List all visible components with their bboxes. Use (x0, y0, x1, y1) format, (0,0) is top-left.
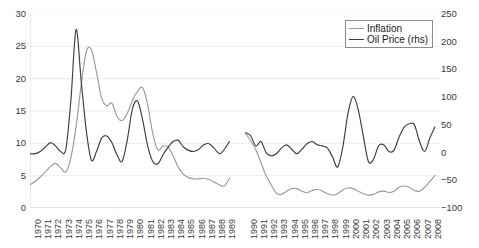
series-line (246, 97, 435, 168)
chart-container: 051015202530 −100−50050100150200250 1970… (0, 0, 479, 248)
series-inflation (30, 47, 435, 195)
x-tick: 1982 (157, 219, 166, 239)
series-line (30, 47, 230, 186)
x-tick: 1997 (321, 219, 330, 239)
x-tick: 1973 (65, 219, 74, 239)
x-tick: 1977 (106, 219, 115, 239)
y-tick-left: 25 (15, 42, 26, 52)
x-tick: 1998 (331, 219, 340, 239)
x-tick: 1980 (136, 219, 145, 239)
y-tick-left: 0 (21, 203, 26, 213)
series-line (30, 29, 230, 164)
y-tick-right: 50 (441, 120, 452, 130)
x-tick: 1972 (54, 219, 63, 239)
x-tick: 1994 (291, 219, 300, 239)
x-tick: 1993 (280, 219, 289, 239)
chart-legend: Inflation Oil Price (rhs) (345, 20, 433, 48)
x-tick: 1991 (260, 219, 269, 239)
y-tick-right: −50 (441, 176, 457, 186)
x-tick: 1999 (342, 219, 351, 239)
x-tick: 2006 (413, 219, 422, 239)
y-tick-right: 250 (441, 9, 457, 19)
y-tick-right: 100 (441, 92, 457, 102)
x-tick: 1979 (126, 219, 135, 239)
x-tick: 2001 (362, 219, 371, 239)
x-tick: 1981 (147, 219, 156, 239)
y-tick-left: 30 (15, 9, 26, 19)
x-tick: 1970 (34, 219, 43, 239)
x-tick: 2007 (424, 219, 433, 239)
x-tick: 2003 (383, 219, 392, 239)
y-axis-left: 051015202530 (0, 0, 26, 248)
y-tick-right: 150 (441, 65, 457, 75)
x-tick: 1995 (301, 219, 310, 239)
y-tick-left: 20 (15, 74, 26, 84)
x-tick: 1985 (187, 219, 196, 239)
x-tick: 1983 (167, 219, 176, 239)
x-tick: 1992 (270, 219, 279, 239)
y-tick-left: 15 (15, 106, 26, 116)
x-tick: 1976 (95, 219, 104, 239)
x-tick: 1975 (85, 219, 94, 239)
x-tick: 1974 (75, 219, 84, 239)
x-tick: 2008 (434, 219, 443, 239)
legend-label-inflation: Inflation (367, 23, 402, 34)
y-tick-left: 10 (15, 139, 26, 149)
y-tick-right: −100 (441, 203, 462, 213)
x-tick: 2004 (393, 219, 402, 239)
x-tick: 1984 (177, 219, 186, 239)
legend-label-oil-price: Oil Price (rhs) (367, 34, 428, 45)
x-tick: 1988 (218, 219, 227, 239)
x-tick: 2000 (352, 219, 361, 239)
x-tick: 1987 (208, 219, 217, 239)
x-tick: 1978 (116, 219, 125, 239)
series-oil-price-rhs (30, 29, 435, 167)
x-tick: 1986 (198, 219, 207, 239)
legend-item-inflation: Inflation (349, 23, 428, 34)
x-tick: 2002 (372, 219, 381, 239)
x-tick: 1989 (228, 219, 237, 239)
y-tick-right: 0 (441, 148, 446, 158)
y-axis-right: −100−50050100150200250 (441, 0, 479, 248)
legend-swatch-inflation (349, 28, 364, 29)
legend-swatch-oil-price (349, 39, 364, 40)
x-tick: 1990 (250, 219, 259, 239)
x-tick: 1971 (44, 219, 53, 239)
x-tick: 1996 (311, 219, 320, 239)
x-tick: 2005 (403, 219, 412, 239)
y-tick-right: 200 (441, 37, 457, 47)
y-tick-left: 5 (21, 171, 26, 181)
legend-item-oil-price: Oil Price (rhs) (349, 34, 428, 45)
